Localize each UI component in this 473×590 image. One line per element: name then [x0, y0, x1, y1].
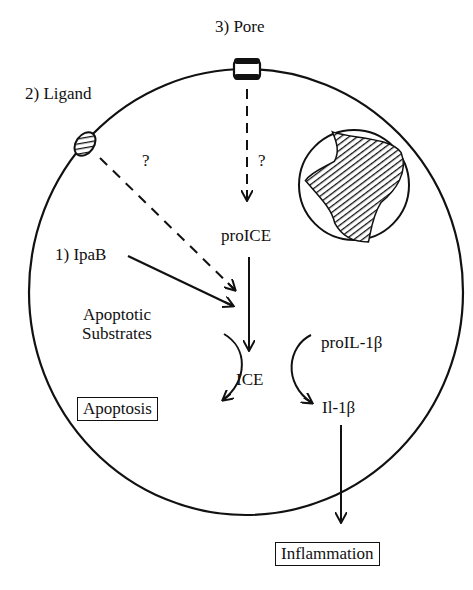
- proice-label: proICE: [221, 227, 271, 246]
- ipab-to-ice-arrow: [128, 256, 233, 306]
- inflammation-box: Inflammation: [275, 542, 380, 566]
- ligand-question-mark: ?: [142, 152, 150, 171]
- ipab-label: 1) IpaB: [55, 246, 106, 265]
- apoptotic-substrates-line-2: Substrates: [82, 324, 152, 343]
- proil1b-label: proIL-1β: [321, 334, 383, 353]
- substrates-to-apoptosis-arrow: [223, 334, 242, 400]
- ice-pathway-diagram: 3) Pore 2) Ligand ? ? proICE 1) IpaB Apo…: [0, 0, 473, 590]
- apoptotic-substrates-line-1: Apoptotic: [83, 305, 151, 324]
- ligand-label: 2) Ligand: [25, 85, 92, 104]
- apoptotic-substrates-label: Apoptotic Substrates: [82, 306, 152, 343]
- il1b-label: Il-1β: [322, 399, 355, 418]
- nucleus-icon: [298, 129, 409, 246]
- proil1b-to-il1b-arrow: [292, 335, 312, 403]
- pore-question-mark: ?: [258, 152, 266, 171]
- pore-icon: [234, 58, 260, 80]
- ligand-to-ice-arrow: [100, 158, 235, 290]
- pore-label: 3) Pore: [215, 18, 265, 37]
- ice-label: ICE: [236, 371, 263, 390]
- apoptosis-box: Apoptosis: [77, 397, 158, 421]
